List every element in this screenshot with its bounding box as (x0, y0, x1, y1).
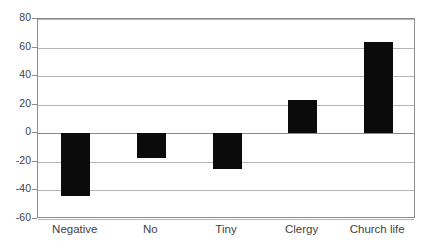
y-tick-label-80: 80 (1, 12, 31, 23)
bar-chart-figure: 806040200-20-40-60 NegativeNoTinyClergyC… (0, 0, 428, 250)
chart-title-remnant (10, 0, 420, 5)
y-tick-label-0: 0 (1, 126, 31, 137)
x-tick-label-no: No (113, 222, 189, 242)
y-tick-label-40: 40 (1, 69, 31, 80)
y-tick-label--20: -20 (1, 155, 31, 166)
bars-layer (38, 19, 414, 217)
y-tick-label-60: 60 (1, 41, 31, 52)
bar-negative (61, 133, 90, 196)
bar-church-life (364, 42, 393, 133)
gridline--60 (38, 219, 414, 220)
x-axis-labels: NegativeNoTinyClergyChurch life (37, 222, 415, 242)
x-tick-label-tiny: Tiny (188, 222, 264, 242)
x-tick-label-clergy: Clergy (264, 222, 340, 242)
y-tick-label--40: -40 (1, 183, 31, 194)
bar-tiny (213, 133, 242, 169)
x-tick-label-negative: Negative (37, 222, 113, 242)
plot-area (37, 18, 415, 218)
y-tick-label--60: -60 (1, 212, 31, 223)
y-axis: 806040200-20-40-60 (0, 0, 31, 250)
y-tick-mark--60 (32, 218, 37, 219)
x-tick-label-church-life: Church life (339, 222, 415, 242)
y-tick-label-20: 20 (1, 98, 31, 109)
bar-clergy (288, 100, 317, 133)
bar-no (137, 133, 166, 157)
